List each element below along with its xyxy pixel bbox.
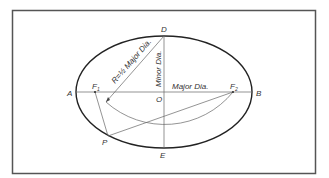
point-o-label: O: [156, 95, 162, 104]
point-b-label: B: [256, 89, 262, 98]
ellipse-diagram: A B D E O P F1 F2 Major Dia. Minor Dia. …: [0, 0, 329, 178]
focus-2-point: [232, 91, 234, 93]
construction-arc: [106, 92, 233, 124]
focus-2-label: F2: [230, 82, 238, 92]
focal-line-f2-p: [108, 92, 233, 136]
focus-1-label: F1: [92, 82, 100, 92]
focal-line-f1-p: [95, 92, 108, 136]
minor-dia-label: Minor Dia.: [154, 51, 163, 87]
point-p-label: P: [102, 138, 108, 147]
point-a-label: A: [66, 89, 72, 98]
focus-1-point: [94, 91, 96, 93]
point-d-label: D: [161, 25, 167, 34]
major-dia-label: Major Dia.: [172, 82, 208, 91]
point-e-label: E: [160, 151, 166, 160]
